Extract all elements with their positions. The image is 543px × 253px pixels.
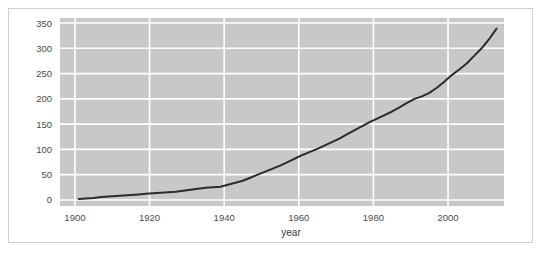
- y-tick-label: 0: [47, 194, 52, 205]
- y-tick-labels: 050100150200250300350: [36, 18, 52, 206]
- y-tick-label: 250: [36, 68, 52, 79]
- y-tick-label: 150: [36, 119, 52, 130]
- y-tick-label: 350: [36, 18, 52, 29]
- x-tick-label: 1960: [288, 212, 309, 223]
- x-tick-label: 1980: [363, 212, 384, 223]
- x-tick-label: 1920: [139, 212, 160, 223]
- x-tick-labels: 190019201940196019802000: [64, 212, 458, 223]
- line-chart: 050100150200250300350 190019201940196019…: [0, 0, 543, 253]
- y-tick-label: 50: [41, 169, 52, 180]
- x-tick-label: 1940: [214, 212, 235, 223]
- plot-background: [60, 18, 504, 206]
- y-tick-label: 200: [36, 93, 52, 104]
- x-axis-title: year: [281, 227, 301, 238]
- y-tick-label: 300: [36, 43, 52, 54]
- x-tick-label: 2000: [437, 212, 458, 223]
- figure-container: 050100150200250300350 190019201940196019…: [0, 0, 543, 253]
- y-tick-label: 100: [36, 144, 52, 155]
- x-tick-label: 1900: [64, 212, 85, 223]
